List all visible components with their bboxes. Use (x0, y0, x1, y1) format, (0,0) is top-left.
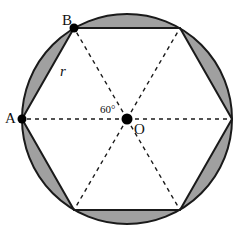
point-a-dot (18, 115, 27, 124)
hexagon-in-circle-svg (0, 0, 248, 236)
point-o-dot (122, 114, 133, 125)
central-angle-label: 60° (100, 104, 115, 115)
center-o-label: O (134, 122, 145, 137)
vertex-b-label: B (62, 13, 72, 28)
radius-label: r (60, 64, 66, 79)
geometry-figure: A B O r 60° (0, 0, 248, 236)
vertex-a-label: A (5, 111, 16, 126)
